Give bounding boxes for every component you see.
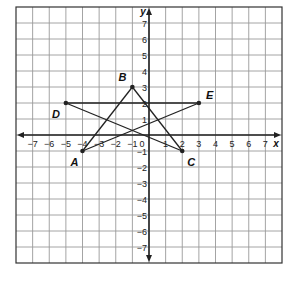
point-label-D: D	[52, 108, 60, 120]
y-tick-label: 4	[142, 67, 147, 77]
y-tick-label: 5	[142, 51, 147, 61]
x-tick-label: −7	[27, 139, 37, 149]
y-tick-label: −6	[137, 227, 147, 237]
y-axis-label: y	[139, 6, 146, 17]
y-tick-label: −2	[137, 163, 147, 173]
point-label-B: B	[118, 71, 126, 83]
x-axis-left-arrow-icon	[17, 132, 24, 138]
point-D	[64, 101, 69, 106]
y-axis-up-arrow-icon	[146, 8, 152, 15]
x-tick-label: −4	[77, 139, 87, 149]
point-E	[197, 101, 202, 106]
x-axis-label: x	[272, 138, 279, 149]
point-label-E: E	[206, 89, 214, 101]
labeled-points: ABCDE	[52, 71, 214, 168]
x-tick-label: 2	[180, 139, 185, 149]
x-tick-label: 7	[263, 139, 268, 149]
x-tick-label: 3	[196, 139, 201, 149]
x-tick-label: 6	[246, 139, 251, 149]
y-tick-label: 3	[142, 83, 147, 93]
x-tick-label: −6	[44, 139, 54, 149]
y-tick-label: −5	[137, 211, 147, 221]
y-tick-label: −4	[137, 195, 147, 205]
point-A	[80, 149, 85, 154]
y-tick-label: 6	[142, 35, 147, 45]
tick-labels: −7−6−5−4−3−2−101234567−7−6−5−4−3−2−11234…	[27, 6, 279, 253]
point-B	[130, 85, 135, 90]
point-C	[180, 149, 185, 154]
y-axis-down-arrow-icon	[146, 255, 152, 262]
x-tick-label: −5	[61, 139, 71, 149]
y-tick-label: 7	[142, 19, 147, 29]
x-tick-label: 5	[230, 139, 235, 149]
y-tick-label: −3	[137, 179, 147, 189]
x-tick-label: −2	[111, 139, 121, 149]
x-tick-label: 4	[213, 139, 218, 149]
y-tick-label: −7	[137, 243, 147, 253]
axes	[17, 8, 281, 262]
y-tick-label: 1	[142, 115, 147, 125]
coordinate-plane: −7−6−5−4−3−2−101234567−7−6−5−4−3−2−11234…	[0, 0, 290, 293]
point-label-A: A	[70, 156, 79, 168]
y-tick-label: −1	[137, 147, 147, 157]
point-label-C: C	[187, 156, 196, 168]
